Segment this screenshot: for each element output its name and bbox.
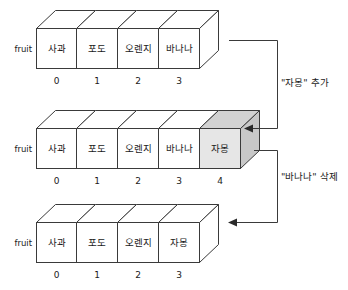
cell-label-new: 자몽	[211, 143, 229, 154]
cell-label: 포도	[88, 43, 106, 54]
variable-label: fruit	[14, 44, 32, 54]
variable-label: fruit	[14, 238, 32, 248]
cell-label: 사과	[48, 43, 66, 54]
index-label: 1	[94, 76, 100, 86]
cell-label: 사과	[48, 237, 66, 248]
index-label: 1	[94, 176, 100, 186]
index-label: 1	[94, 270, 100, 280]
array-row-after-remove: 사과 포도 오렌지 자몽 fruit 0 1 2 3	[14, 205, 218, 280]
cell-label: 사과	[48, 143, 66, 154]
cell-label: 포도	[88, 237, 106, 248]
index-label: 2	[135, 270, 141, 280]
index-label: 3	[176, 76, 182, 86]
array-diagram-canvas: 사과 포도 오렌지 바나나 fruit 0 1 2 3	[0, 0, 348, 290]
array-row-after-append: 사과 포도 오렌지 바나나 자몽 fruit 0 1 2 3 4	[14, 111, 259, 186]
arrowhead-icon	[228, 219, 237, 227]
variable-label: fruit	[14, 144, 32, 154]
index-label: 3	[176, 176, 182, 186]
cell-label: 바나나	[166, 43, 193, 54]
index-label: 4	[217, 176, 223, 186]
cell-label: 오렌지	[125, 43, 152, 54]
cell-label: 포도	[88, 143, 106, 154]
cell-label: 오렌지	[125, 237, 152, 248]
index-label: 2	[135, 176, 141, 186]
cell-label: 바나나	[166, 143, 193, 154]
index-label: 0	[54, 270, 60, 280]
index-label: 3	[176, 270, 182, 280]
array-operations-diagram: 사과 포도 오렌지 바나나 fruit 0 1 2 3	[0, 0, 348, 290]
cell-label: 오렌지	[125, 143, 152, 154]
cell-label: 자몽	[170, 237, 188, 248]
annotation-append-label: "자몽" 추가	[281, 77, 329, 88]
index-label: 0	[54, 176, 60, 186]
array-row-before: 사과 포도 오렌지 바나나 fruit 0 1 2 3	[14, 11, 218, 86]
index-label: 2	[135, 76, 141, 86]
annotation-remove-label: "바나나" 삭제	[281, 171, 338, 182]
index-label: 0	[54, 76, 60, 86]
